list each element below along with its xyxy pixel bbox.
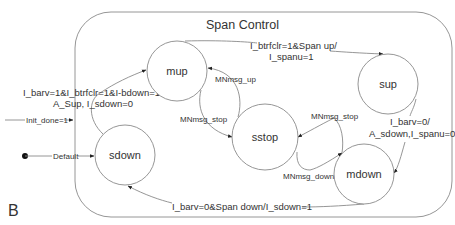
transition-label-mup-to-sstop: MNmsg_stop	[180, 115, 228, 124]
state-diagram: Span Control B Init_done=1 Default I_bar…	[0, 0, 455, 225]
transition-label-sup-to-mdown-line1: I_barv=0/	[390, 116, 430, 127]
transition-label-mup-to-sup-line1: I_btrfclr=1&Span up/	[250, 40, 337, 51]
transition-label-sup-to-mdown-line2: A_sdown,I_spanu=0	[369, 128, 455, 139]
transition-label-mup-to-sup-line2: I_spanu=1	[269, 51, 314, 62]
state-label-sstop: sstop	[252, 131, 278, 143]
transition-mdown-to-sdown: I_barv=0&Span down/I_sdown=1	[128, 186, 364, 212]
diagram-title: Span Control	[206, 18, 279, 32]
state-label-mup: mup	[166, 65, 187, 77]
transition-label-sstop-to-mup: MNmsg_up	[215, 75, 256, 84]
transition-init: Init_done=1	[5, 116, 73, 125]
transition-label-sdown-to-mup-line1: I_barv=1&I_btrfclr=1&I-bdown=1/	[23, 87, 163, 98]
state-sdown: sdown	[95, 125, 155, 185]
state-mup: mup	[147, 41, 207, 101]
transition-label-mdown-to-sdown: I_barv=0&Span down/I_sdown=1	[172, 201, 312, 212]
state-sup: sup	[358, 54, 418, 114]
state-sstop: sstop	[232, 104, 298, 170]
state-label-sdown: sdown	[109, 149, 141, 161]
state-mdown: mdown	[334, 144, 394, 204]
state-label-mdown: mdown	[346, 168, 381, 180]
transition-default: Default	[22, 152, 94, 161]
transition-mup-to-sup: I_btrfclr=1&Span up/ I_spanu=1	[185, 40, 383, 62]
transition-label-mdown-to-sstop: MNmsg_stop	[311, 112, 359, 121]
state-label-sup: sup	[379, 78, 397, 90]
figure-letter: B	[8, 202, 19, 219]
transition-mdown-to-sstop: MNmsg_stop	[298, 112, 359, 153]
transition-label-sstop-to-mdown: MNmsg_down	[283, 172, 334, 181]
transition-label-default: Default	[53, 152, 79, 161]
transition-label-sdown-to-mup-line2: A_Sup, I_sdown=0	[53, 98, 133, 109]
transition-label-init: Init_done=1	[26, 116, 69, 125]
